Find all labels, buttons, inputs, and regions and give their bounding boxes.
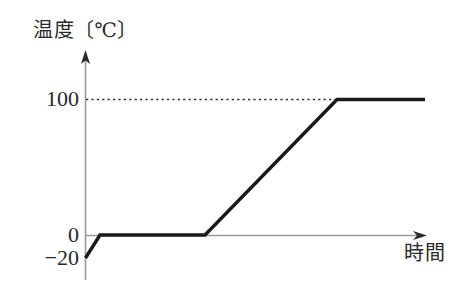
temperature-curve: [86, 100, 426, 259]
y-tick-label-0: 0: [68, 224, 79, 246]
y-tick-label-minus-20: −20: [45, 247, 79, 269]
heating-curve-figure: 温度〔℃〕 時間 100 0 −20: [0, 0, 468, 308]
x-axis-label: 時間: [404, 243, 445, 263]
y-tick-label-100: 100: [46, 88, 79, 110]
y-axis-label: 温度〔℃〕: [33, 20, 138, 40]
